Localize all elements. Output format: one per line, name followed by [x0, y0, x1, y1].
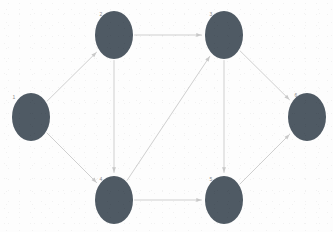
edge-layer: [47, 33, 290, 202]
graph-edge-4-3: [127, 56, 210, 180]
graph-edge-arrowhead-3-5: [222, 167, 226, 172]
graph-edge-arrowhead-2-4: [112, 167, 116, 172]
graph-node-1[interactable]: 1: [12, 93, 50, 141]
graph-canvas: 123456: [0, 0, 333, 232]
directed-graph-figure: 123456: [0, 0, 333, 232]
graph-node-6[interactable]: 6: [288, 92, 326, 141]
graph-edge-1-4: [47, 133, 97, 183]
graph-node-2[interactable]: 2: [95, 11, 133, 59]
graph-node-5[interactable]: 5: [205, 176, 243, 224]
graph-node-3[interactable]: 3: [205, 11, 243, 59]
graph-edge-5-6: [240, 134, 290, 184]
graph-edge-arrowhead-4-3: [205, 56, 210, 61]
graph-edge-3-6: [240, 51, 290, 100]
graph-node-label-1: 1: [13, 94, 16, 100]
graph-node-shape-3[interactable]: [205, 11, 243, 59]
graph-edge-1-2: [47, 52, 97, 101]
graph-node-shape-4[interactable]: [95, 176, 133, 224]
graph-edge-arrowhead-4-5: [196, 198, 201, 202]
graph-node-shape-6[interactable]: [288, 93, 326, 141]
graph-node-shape-1[interactable]: [12, 93, 50, 141]
graph-node-shape-2[interactable]: [95, 11, 133, 59]
graph-node-shape-5[interactable]: [205, 176, 243, 224]
graph-node-4[interactable]: 4: [95, 176, 133, 224]
graph-edge-arrowhead-2-3: [196, 33, 201, 37]
